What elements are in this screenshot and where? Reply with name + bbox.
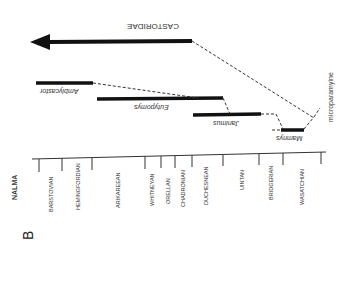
age-label-uintan: UINTAN [239,170,245,190]
age-label-barstovian: BARSTOVIAN [48,177,54,212]
age-label-whitneyan: WHITNEYAN [149,173,155,206]
age-label-arikareean: ARIKAREEAN [115,173,121,208]
age-label-wasatchian: WASATCHIAN [299,169,305,205]
nalma-axis-line [32,152,326,159]
phylogeny-links [93,41,320,130]
phylogeny-figure: CASTORIDAE Amblycastor Eutypomys Janimus… [0,0,343,294]
taxon-label-eutypomys: Eutypomys [134,104,169,111]
castoridae-label: CASTORIDAE [127,22,179,31]
age-label-bridgerian: BRIDGERIAN [268,166,274,200]
microparamyine-label: microparamyine [327,72,334,122]
diagram-graphics [0,0,343,294]
castoridae-arrow-shaft [48,41,192,42]
age-label-duchesnean: DUCHESNEAN [203,166,209,205]
taxon-label-amblycastor: Amblycastor [40,88,79,95]
axis-title-nalma: NALMA [11,175,18,200]
panel-label: B [20,231,36,240]
range-bar-janimus [193,114,261,115]
taxon-label-mamnys: Mamnys [276,135,302,142]
age-label-hemingfordian: HEMINGFORDIAN [75,163,81,210]
castoridae-arrowhead-icon [30,34,50,50]
age-label-chadronian: CHADRONIAN [180,170,186,207]
range-bar-eutypomys [97,98,223,99]
age-label-orellan: ORELLAN [165,178,171,204]
taxon-label-janimus: Janimus [213,120,239,127]
